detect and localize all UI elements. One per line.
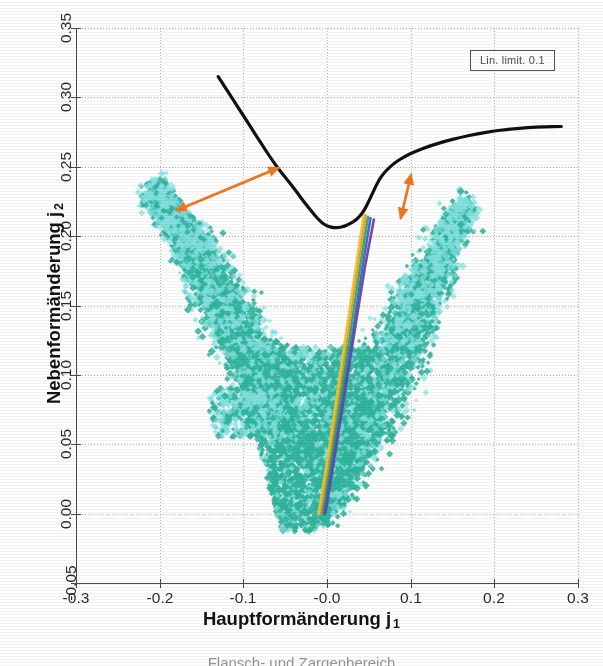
- legend-label: Lin. limit. 0.1: [480, 54, 545, 66]
- x-axis-tick-label: 0.1: [400, 589, 422, 607]
- gridline-vertical: [578, 28, 579, 583]
- gridline-horizontal: [76, 514, 578, 515]
- gridline-horizontal: [76, 28, 578, 29]
- legend-box: Lin. limit. 0.1: [470, 50, 555, 71]
- forming-limit-diagram-figure: -0.3-0.2-0.1-0.00.10.20.3-0.050.000.050.…: [0, 0, 603, 666]
- x-axis-line: [76, 583, 579, 584]
- y-axis-tick-label: 0.35: [57, 13, 75, 43]
- figure-caption: Flansch- und Zargenbereich: [0, 654, 603, 666]
- y-axis-title-text: Nebenformänderung j: [43, 212, 64, 404]
- x-axis-tick-label: -0.2: [146, 589, 173, 607]
- y-axis-tick-label: 0.30: [57, 82, 75, 112]
- gridline-horizontal: [76, 375, 578, 376]
- y-axis-title: Nebenformänderung j2: [43, 154, 66, 454]
- x-axis-title: Hauptformänderung j1: [0, 608, 603, 631]
- x-axis-tick-label: -0.1: [229, 589, 256, 607]
- x-axis-tick-label: 0.3: [567, 589, 589, 607]
- y-axis-line: [76, 28, 77, 584]
- gridline-horizontal: [76, 167, 578, 168]
- y-axis-tick-label: 0.00: [57, 499, 75, 529]
- x-axis-title-subscript: 1: [391, 617, 400, 631]
- gridline-horizontal: [76, 306, 578, 307]
- gridline-horizontal: [76, 444, 578, 445]
- x-axis-tick-label: -0.0: [313, 589, 340, 607]
- gridline-horizontal: [76, 236, 578, 237]
- x-axis-tick-label: 0.2: [483, 589, 505, 607]
- y-axis-title-subscript: 2: [52, 203, 66, 212]
- gridline-horizontal: [76, 97, 578, 98]
- x-axis-title-text: Hauptformänderung j: [203, 608, 391, 629]
